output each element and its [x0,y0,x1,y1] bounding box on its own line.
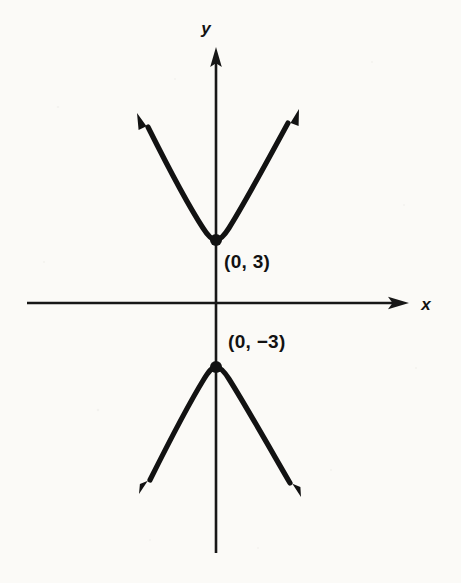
hyperbola-figure: y x (0, 3) (0, −3) [0,0,461,583]
x-axis-label: x [420,295,432,314]
lower-vertex-point [210,361,222,373]
paper-background [0,0,461,583]
upper-vertex-point [210,234,222,246]
upper-vertex-label: (0, 3) [224,251,270,272]
graph-canvas: y x (0, 3) (0, −3) [0,0,461,583]
y-axis-label: y [200,19,212,38]
lower-vertex-label: (0, −3) [228,331,286,352]
